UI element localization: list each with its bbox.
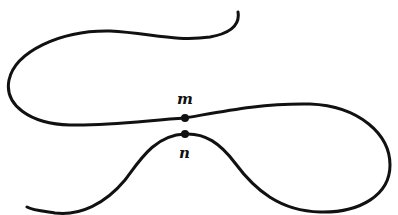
curve-path xyxy=(8,12,390,213)
point-m-label: m xyxy=(177,92,193,107)
point-m-dot xyxy=(181,114,189,122)
point-n-dot xyxy=(181,130,189,138)
point-n-label: n xyxy=(179,146,190,161)
curve-diagram xyxy=(0,0,398,215)
